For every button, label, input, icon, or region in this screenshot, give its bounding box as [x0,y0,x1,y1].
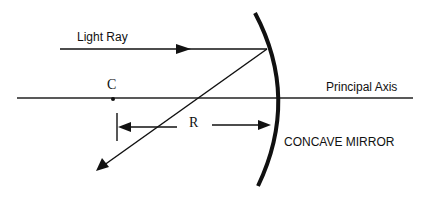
mirror-label: CONCAVE MIRROR [284,135,395,149]
radius-label: R [189,115,199,130]
principal-axis-label: Principal Axis [326,80,397,94]
reflected-ray-arrowhead-icon [96,158,109,171]
center-label: C [107,77,116,92]
incident-ray-arrowhead-icon [176,44,191,54]
concave-mirror-curve [255,13,278,186]
radius-left-arrowhead-icon [118,122,131,132]
concave-mirror-diagram: Light Ray C Principal Axis R CONCAVE MIR… [0,0,424,199]
light-ray-label: Light Ray [77,30,128,44]
center-point-dot [111,97,115,101]
reflected-ray-line [100,49,267,168]
radius-right-arrowhead-icon [258,120,271,130]
